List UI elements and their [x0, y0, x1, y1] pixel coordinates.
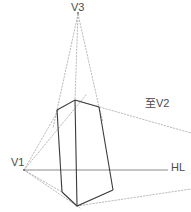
perspective-diagram: V3 V1 HL 至V2 [0, 0, 191, 212]
v3-line-right-edge [78, 14, 99, 107]
label-to-v2: 至V2 [145, 98, 169, 109]
v1-line-top-left [24, 109, 59, 170]
front-vertical-edge [75, 100, 77, 206]
v1-point-marker [23, 169, 25, 171]
v1-line-bottom-left [24, 170, 62, 192]
construction-lines-to-v2 [75, 100, 191, 206]
right-vertical-edge [99, 107, 113, 190]
v2-line-bottom [77, 189, 191, 206]
construction-lines-to-v3 [53, 14, 103, 128]
v1-line-top-front [24, 95, 86, 170]
label-horizon-line: HL [171, 162, 185, 173]
vanishing-point-markers [23, 12, 79, 171]
bottom-face-edges [62, 190, 113, 206]
v1-line-bottom-front [24, 170, 80, 208]
left-vertical-edge [57, 110, 62, 192]
label-v1: V1 [11, 157, 24, 168]
label-v3: V3 [71, 2, 84, 13]
solid-body [57, 100, 113, 206]
